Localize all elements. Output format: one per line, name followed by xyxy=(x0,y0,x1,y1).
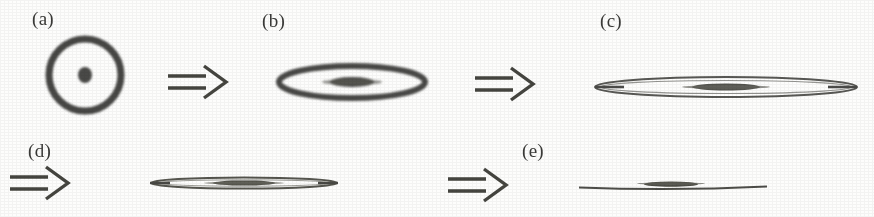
arrow-b-to-c-icon xyxy=(473,64,539,104)
panel-label-e: (e) xyxy=(522,140,544,162)
panel-label-b: (b) xyxy=(262,10,285,32)
figure-canvas: (a) xyxy=(0,0,874,217)
shape-panel-e xyxy=(575,174,771,196)
panel-label-d: (d) xyxy=(28,140,51,162)
panel-label-a: (a) xyxy=(32,8,54,30)
shape-panel-c xyxy=(590,70,862,104)
shape-panel-d xyxy=(146,170,342,196)
shape-panel-b xyxy=(270,58,434,108)
arrow-a-to-b-icon xyxy=(166,62,232,102)
arrow-d-to-e-icon xyxy=(446,165,512,205)
arrow-c-to-d-icon xyxy=(8,163,74,203)
shape-panel-a xyxy=(40,30,132,122)
panel-label-c: (c) xyxy=(600,10,622,32)
